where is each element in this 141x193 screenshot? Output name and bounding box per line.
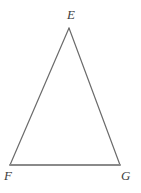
vertex-label-g: G [121,169,130,182]
vertex-label-e: E [67,8,75,21]
triangle-svg [0,0,141,193]
triangle-figure: E F G [0,0,141,193]
triangle-side-EF [10,28,69,165]
triangle-side-EG [69,28,120,165]
vertex-label-f: F [4,169,12,182]
